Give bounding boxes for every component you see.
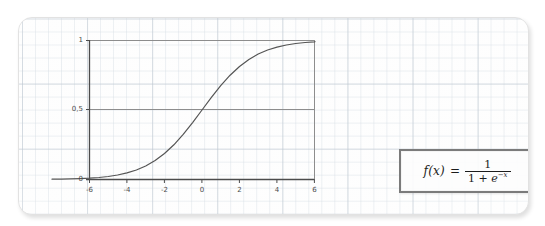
formula-denominator-plus: + — [478, 172, 487, 185]
formula-numerator: 1 — [480, 159, 495, 171]
screenshot-root: 1 0,5 0 -6 -4 -2 0 2 4 6 f(x) = 1 1 + e−… — [0, 0, 545, 226]
formula-lhs: f(x) — [424, 165, 445, 177]
y-tick-label-0.5: 0,5 — [63, 106, 83, 113]
formula-denominator: 1 + e−x — [465, 172, 511, 184]
x-tick-label-minus6: -6 — [86, 187, 93, 194]
x-tick-label-2: 2 — [237, 187, 241, 194]
x-tick-label-6: 6 — [312, 187, 316, 194]
x-tick-label-minus2: -2 — [161, 187, 168, 194]
formula-box: f(x) = 1 1 + e−x — [399, 149, 529, 193]
x-tick-label-minus4: -4 — [123, 187, 130, 194]
y-tick-label-0: 0 — [69, 176, 83, 183]
formula-equals: = — [450, 165, 460, 177]
sigmoid-formula: f(x) = 1 1 + e−x — [424, 159, 511, 184]
x-tick-label-4: 4 — [275, 187, 279, 194]
y-tick-label-1: 1 — [69, 37, 83, 44]
graph-paper-card: 1 0,5 0 -6 -4 -2 0 2 4 6 f(x) = 1 1 + e−… — [18, 17, 529, 215]
formula-fraction: 1 1 + e−x — [465, 159, 511, 184]
formula-denominator-one: 1 — [468, 172, 475, 185]
x-tick-label-0: 0 — [200, 187, 204, 194]
formula-denominator-exponent: −x — [498, 171, 508, 179]
sigmoid-curve — [52, 42, 315, 180]
